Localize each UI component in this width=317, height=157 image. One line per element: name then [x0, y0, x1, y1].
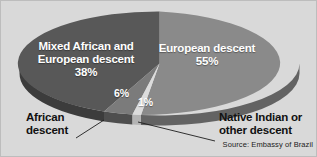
slice-label-mixed: Mixed African and European descent 38% — [25, 27, 147, 91]
slice-label-african-percent: 6% — [114, 88, 129, 100]
slice-label-european-percent: 55% — [151, 55, 263, 68]
callout-label-african: African descent — [26, 111, 106, 137]
slice-label-european: European descent 55% — [151, 29, 263, 81]
callout-label-native: Native Indian or other descent — [219, 111, 317, 137]
slice-side-native — [133, 115, 142, 125]
source-note: Source: Embassy of Brazil — [197, 140, 313, 149]
slice-label-mixed-percent: 38% — [25, 66, 147, 79]
pie-chart-figure: Mixed African and European descent 38% E… — [0, 0, 317, 157]
slice-label-native-percent: 1% — [138, 97, 153, 109]
slice-label-mixed-text: Mixed African and European descent — [38, 40, 135, 65]
slice-label-european-text: European descent — [159, 42, 256, 54]
